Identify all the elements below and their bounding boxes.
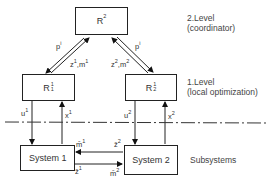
label-p-left: pi xyxy=(56,43,61,51)
system-2-label: System 2 xyxy=(132,155,170,165)
level-separator-line xyxy=(5,122,268,123)
level-2-desc: (coordinator) xyxy=(187,23,235,33)
label-zm-left: z1,m1 xyxy=(70,61,88,69)
local-optimizer-1-label: R 11 xyxy=(43,83,54,93)
system-2-box: System 2 xyxy=(124,145,178,175)
local-optimizer-2-label: R 12 xyxy=(146,83,157,93)
level-1-annotation: 1.Level (local optimization) xyxy=(187,77,258,97)
label-zm-right: z2,m2 xyxy=(111,61,129,69)
level-1-title: 1.Level xyxy=(187,77,258,87)
label-m-bar-1: m̄1 xyxy=(76,141,85,149)
local-optimizer-2-box: R 12 xyxy=(125,74,177,101)
level-1-desc: (local optimization) xyxy=(187,87,258,97)
label-u1: u1 xyxy=(21,110,28,118)
label-z-bar-2: z̄2 xyxy=(114,141,121,149)
subsystems-annotation: Subsystems xyxy=(190,155,236,165)
label-z-bar-1: z̄1 xyxy=(75,168,82,176)
system-1-box: System 1 xyxy=(20,145,75,171)
system-1-label: System 1 xyxy=(29,153,67,163)
label-m-bar-2: m̄2 xyxy=(110,170,119,178)
level-2-annotation: 2.Level (coordinator) xyxy=(187,13,235,33)
label-x1: x1 xyxy=(65,112,72,120)
label-x2: x2 xyxy=(168,113,175,121)
coordinator-box: R2 xyxy=(75,7,128,35)
label-p-right: pi xyxy=(135,43,140,51)
coordinator-label: R2 xyxy=(97,16,107,26)
level-2-title: 2.Level xyxy=(187,13,235,23)
local-optimizer-1-box: R 11 xyxy=(22,74,75,101)
label-u2: u2 xyxy=(124,112,131,120)
